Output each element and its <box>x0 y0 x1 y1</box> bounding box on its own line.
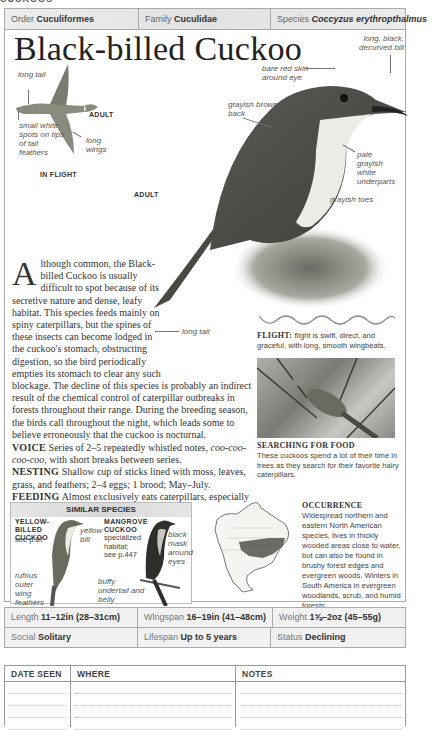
photo-caption: These cuckoos spend a lot of their time … <box>257 451 405 480</box>
searching-for-food-photo <box>257 358 395 438</box>
log-header: DATE SEEN WHERE NOTES <box>5 666 405 682</box>
label-black-mask: black mask around eyes <box>168 530 192 566</box>
stat-length: Length 11–12in (28–31cm) <box>5 608 138 627</box>
log-header-notes: NOTES <box>236 666 405 681</box>
description-text: Although common, the Black-billed Cuckoo… <box>12 258 260 515</box>
label-back: grayish brown back <box>228 100 278 118</box>
log-body <box>5 682 405 727</box>
log-header-where: WHERE <box>71 666 236 681</box>
label-adult-flight: ADULT <box>89 111 114 118</box>
label-long-wings: long wings <box>86 136 116 154</box>
photo-title: SEARCHING FOR FOOD <box>257 441 355 450</box>
photo-bird <box>257 358 395 438</box>
stats-row: Length 11–12in (28–31cm) Wingspan 16–19i… <box>5 608 405 628</box>
taxonomy-species: Species Coccyzus erythropthalmus <box>271 9 432 29</box>
occurrence-title: OCCURRENCE <box>302 501 362 510</box>
log-header-date: DATE SEEN <box>5 666 71 681</box>
label-underparts: pale grayish white underparts <box>357 150 397 186</box>
species-value: Coccyzus erythropthalmus <box>312 14 428 24</box>
sighting-log-table: DATE SEEN WHERE NOTES <box>4 665 406 726</box>
label-white-spots: small white spots on tips of tail feathe… <box>19 121 69 157</box>
flight-pattern-text: FLIGHT: flight is swift, direct, and gra… <box>257 331 402 351</box>
stat-status: Status Declining <box>271 628 405 647</box>
label-adult-main: ADULT <box>134 191 159 198</box>
flight-bird-upper-wing <box>50 64 69 106</box>
section-label: CUCKOOS <box>0 0 53 4</box>
label-buffy-undertail: buffy undertail and belly <box>98 577 148 604</box>
similar-species-2-ref[interactable]: specialized habitat; see p.447 <box>104 534 138 560</box>
log-col-date[interactable] <box>5 682 71 727</box>
similar-species-header: SIMILAR SPECIES <box>11 503 191 517</box>
order-value: Cuculiformes <box>37 14 95 24</box>
similar-species-1-ref[interactable]: see p.87 <box>15 535 44 544</box>
caption-in-flight: IN FLIGHT <box>40 171 77 178</box>
log-col-notes[interactable] <box>236 682 405 727</box>
flight-pattern-wave <box>257 312 397 328</box>
stat-social: Social Solitary <box>5 628 138 647</box>
family-value: Cuculidae <box>174 14 217 24</box>
yellow-billed-cuckoo-illustration <box>44 516 84 606</box>
taxonomy-family: Family Cuculidae <box>139 9 271 29</box>
taxonomy-bar: Order Cuculiformes Family Cuculidae Spec… <box>4 8 406 30</box>
log-col-where[interactable] <box>71 682 236 727</box>
label-toes: grayish toes <box>330 195 390 204</box>
label-rufous-wing: rufous outer wing feathers <box>15 571 50 607</box>
stat-lifespan: Lifespan Up to 5 years <box>138 628 271 647</box>
range-map <box>203 498 298 596</box>
bird-eye <box>340 94 348 102</box>
nesting-paragraph: NESTING Shallow cup of sticks lined with… <box>12 466 260 490</box>
taxonomy-order: Order Cuculiformes <box>5 9 139 29</box>
occurrence-text: Widespread northern and eastern North Am… <box>302 511 402 611</box>
label-eye: bare red skin around eye <box>262 64 317 82</box>
label-bill: long, black, decurved bill <box>352 34 404 52</box>
stat-weight: Weight 1⅝–2oz (45–55g) <box>273 608 405 627</box>
stat-wingspan: Wingspan 16–19in (41–48cm) <box>138 608 273 627</box>
label-long-tail: long tail <box>18 70 48 79</box>
stats-table: Length 11–12in (28–31cm) Wingspan 16–19i… <box>4 607 406 648</box>
stats-row: Social Solitary Lifespan Up to 5 years S… <box>5 628 405 647</box>
similar-species-2-name: MANGROVE CUCKOO <box>104 518 144 534</box>
label-yellow-bill: yellow bill <box>80 526 102 544</box>
voice-paragraph: VOICE Series of 2–5 repeatedly whistled … <box>12 442 260 466</box>
